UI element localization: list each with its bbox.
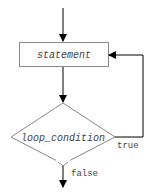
condition-label: loop_condition [21, 133, 105, 144]
statement-node: statement [20, 43, 109, 67]
true-loop-path [109, 55, 143, 137]
flowchart: statement loop_condition true false [0, 0, 152, 193]
statement-label: statement [37, 50, 91, 61]
condition-node: loop_condition [11, 103, 115, 166]
true-label: true [117, 141, 139, 151]
false-label: false [71, 169, 98, 179]
